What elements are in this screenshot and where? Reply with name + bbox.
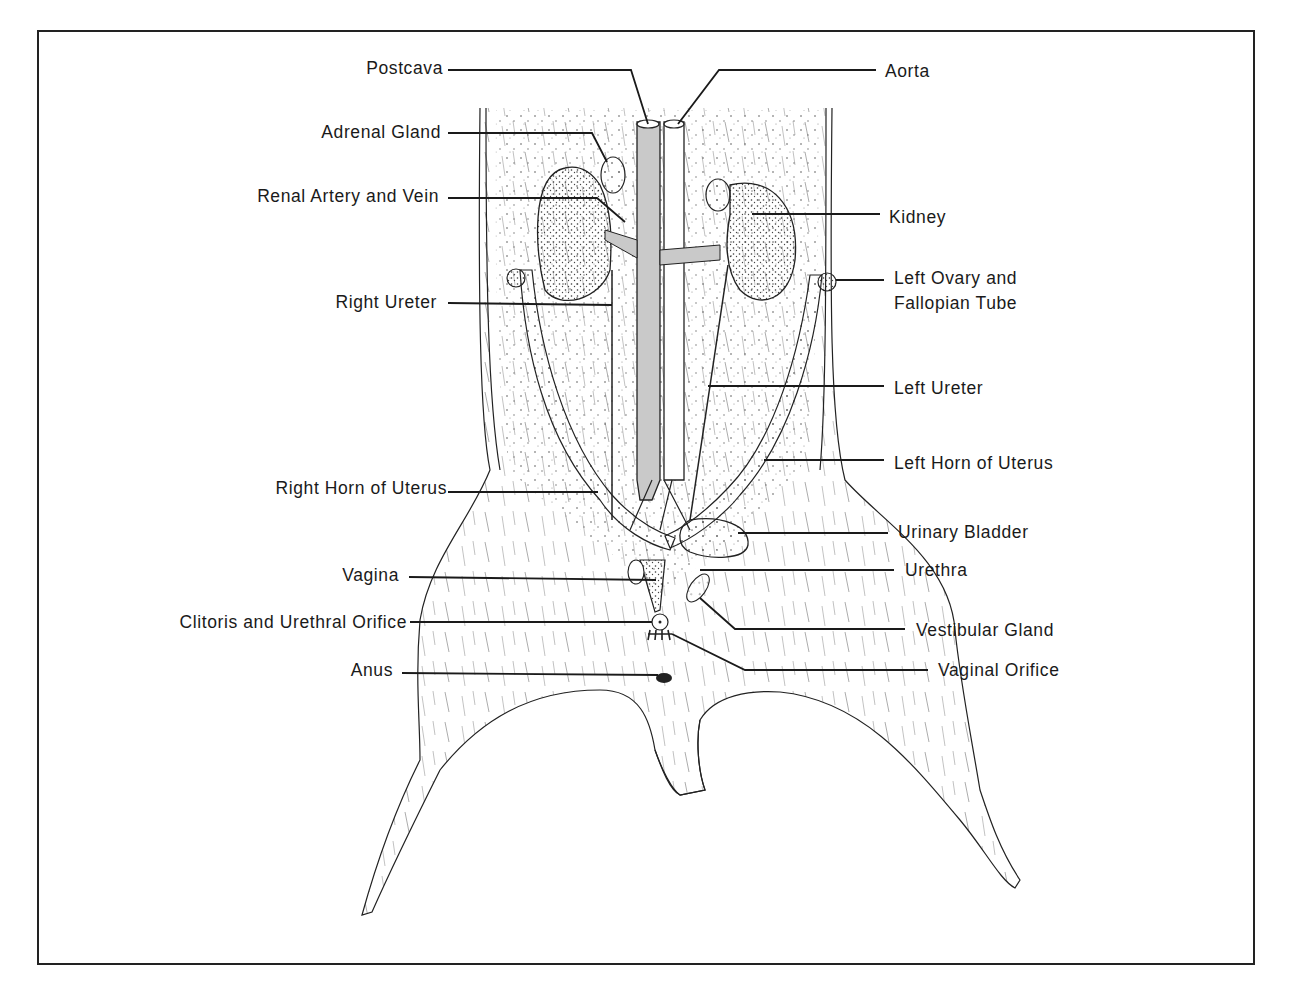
label-left-ureter: Left Ureter	[894, 378, 983, 398]
label-vestibular-gland: Vestibular Gland	[916, 620, 1054, 640]
label-left-horn-of-uterus: Left Horn of Uterus	[894, 453, 1053, 473]
label-kidney: Kidney	[889, 207, 946, 227]
label-adrenal-gland: Adrenal Gland	[321, 122, 441, 142]
label-right-ureter: Right Ureter	[335, 292, 437, 312]
label-urinary-bladder: Urinary Bladder	[898, 522, 1029, 542]
label-vaginal-orifice: Vaginal Orifice	[938, 660, 1060, 680]
label-aorta: Aorta	[885, 61, 930, 81]
label-vagina: Vagina	[342, 565, 399, 585]
label-anus: Anus	[351, 660, 393, 680]
label-postcava: Postcava	[366, 58, 443, 78]
label-urethra: Urethra	[905, 560, 968, 580]
anatomy-illustration	[0, 0, 1289, 993]
label-clitoris-and-urethral-orifice: Clitoris and Urethral Orifice	[180, 612, 407, 632]
label-renal-artery-and-vein: Renal Artery and Vein	[257, 186, 439, 206]
label-left-ovary-line1: Left Ovary and	[894, 268, 1017, 288]
label-left-ovary-line2: Fallopian Tube	[894, 293, 1017, 313]
label-right-horn-of-uterus: Right Horn of Uterus	[275, 478, 447, 498]
